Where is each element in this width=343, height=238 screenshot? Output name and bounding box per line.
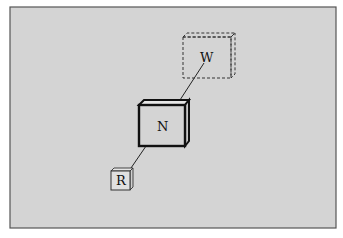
node-w-label: W: [200, 50, 214, 65]
node-n-label: N: [157, 119, 168, 134]
node-r-label: R: [116, 173, 127, 188]
node-r: R: [111, 168, 133, 190]
node-n: N: [139, 100, 189, 146]
diagram-canvas: W N R: [0, 0, 343, 238]
